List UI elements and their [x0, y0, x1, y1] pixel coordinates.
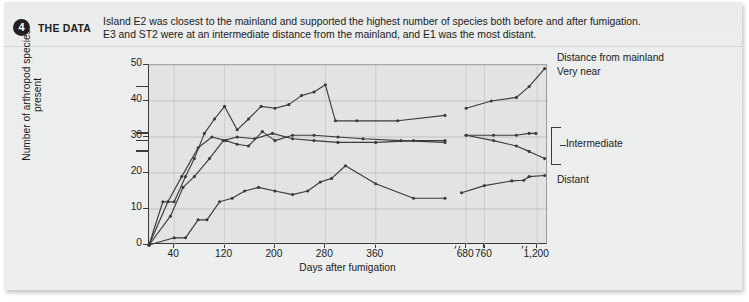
very-near-label: Very near	[557, 66, 601, 77]
figure-header: 4 THE DATA Island E2 was closest to the …	[4, 8, 742, 46]
series-e3-line	[149, 132, 445, 245]
series-e2-line	[149, 85, 445, 245]
x-tick-40: 40	[153, 248, 193, 259]
series-e2-line-late	[466, 69, 545, 109]
chart-figure: Number of arthropod species present Days…	[4, 48, 742, 288]
y-tick-0: 0	[116, 237, 142, 248]
x-axis-title: Days after fumigation	[148, 262, 547, 273]
figure-page: 4 THE DATA Island E2 was closest to the …	[0, 0, 749, 302]
caption-line-1: Island E2 was closest to the mainland an…	[103, 15, 703, 28]
figure-caption: Island E2 was closest to the mainland an…	[103, 15, 703, 42]
x-tick-120: 120	[204, 248, 244, 259]
y-tick-10: 10	[116, 201, 142, 212]
series-e3-line-late	[466, 133, 536, 135]
series-st2-line	[149, 133, 445, 245]
chart-svg	[149, 65, 548, 245]
series-st2-line-late	[466, 135, 545, 158]
x-tick-280: 280	[304, 248, 344, 259]
y-tick-30: 30	[116, 129, 142, 140]
figure-panel: 4 THE DATA Island E2 was closest to the …	[4, 2, 742, 290]
distant-label: Distant	[557, 174, 589, 185]
y-tick-50: 50	[116, 57, 142, 68]
section-kicker-label: THE DATA	[38, 22, 91, 34]
y-tick-20: 20	[116, 165, 142, 176]
x-tick-360: 360	[355, 248, 395, 259]
x-tick-200: 200	[254, 248, 294, 259]
y-tick-mark	[143, 244, 148, 245]
x-tick-1200: 1,200	[516, 248, 556, 259]
y-tick-40: 40	[116, 93, 142, 104]
y-axis-title: Number of arthropod species present	[21, 15, 43, 175]
header-divider	[4, 46, 742, 47]
series-e1-line-late	[462, 176, 545, 193]
plot-area	[148, 64, 547, 244]
distance-from-mainland-title: Distance from mainland	[557, 52, 664, 63]
caption-line-2: E3 and ST2 were at an intermediate dista…	[103, 28, 703, 41]
x-tick-760: 760	[463, 248, 503, 259]
intermediate-label: Intermediate	[566, 138, 623, 149]
